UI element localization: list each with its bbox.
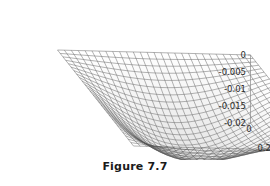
surface-plot: 0-0.005-0.01-0.015-0.0200.20.40.60.81y0.…	[0, 0, 270, 160]
axis-tick-text: -0.005	[219, 67, 246, 77]
figure-container: 0-0.005-0.01-0.015-0.0200.20.40.60.81y0.…	[0, 0, 270, 186]
figure-caption: Figure 7.7	[0, 160, 270, 173]
axis-tick-text: -0.015	[219, 101, 246, 111]
axis-tick-text: -0.02	[224, 118, 246, 128]
axis-tick-text: 0	[241, 50, 246, 60]
axis-tick-text: 0.2	[257, 143, 270, 153]
axis-tick-text: 0	[246, 124, 251, 134]
axis-tick-text: -0.01	[224, 84, 246, 94]
